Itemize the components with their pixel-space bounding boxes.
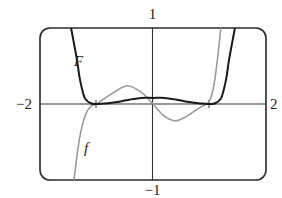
curve-label-f: f bbox=[84, 140, 90, 156]
curve-label-F: F bbox=[73, 53, 84, 69]
y-min-label: −1 bbox=[145, 182, 161, 198]
x-min-label: −2 bbox=[16, 96, 32, 112]
x-max-label: 2 bbox=[270, 96, 278, 112]
y-max-label: 1 bbox=[149, 6, 157, 22]
function-graph: 1 −1 −2 2 F f bbox=[0, 0, 282, 198]
